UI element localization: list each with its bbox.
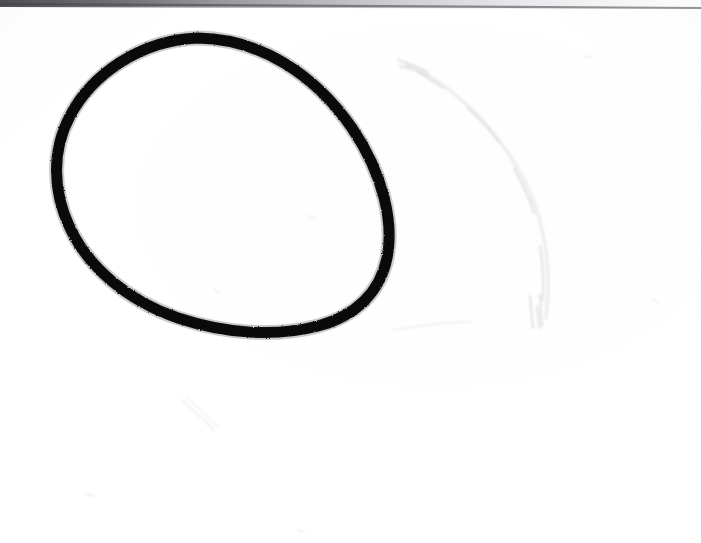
smudge-speck-left-bottom xyxy=(86,494,94,496)
smudge-speck-right-mid xyxy=(652,300,658,302)
erased-ghost-arc xyxy=(404,62,548,318)
hand-drawn-oval-halo xyxy=(57,38,390,333)
erased-ghost-arc-tail xyxy=(530,294,542,328)
hand-drawn-oval-core xyxy=(57,38,390,333)
smudge-speck-inside-oval xyxy=(214,290,219,292)
drawing-canvas xyxy=(0,0,701,543)
hand-drawn-oval-group xyxy=(57,38,390,333)
smudge-speck-upper-right xyxy=(584,56,592,58)
smudge-speck-upper-inside xyxy=(308,216,314,219)
smudge-below-oval-horizontal xyxy=(394,322,470,330)
smudge-lower-left-diagonal xyxy=(182,400,214,430)
hand-drawn-oval xyxy=(57,38,390,333)
erased-ghost-arc-highlight xyxy=(407,66,543,328)
smudge-speck-bottom-center xyxy=(298,530,304,532)
smudge-lower-left-diagonal-second xyxy=(188,398,219,428)
erased-ghost-arc-group xyxy=(398,60,548,328)
scanned-page xyxy=(0,0,701,543)
